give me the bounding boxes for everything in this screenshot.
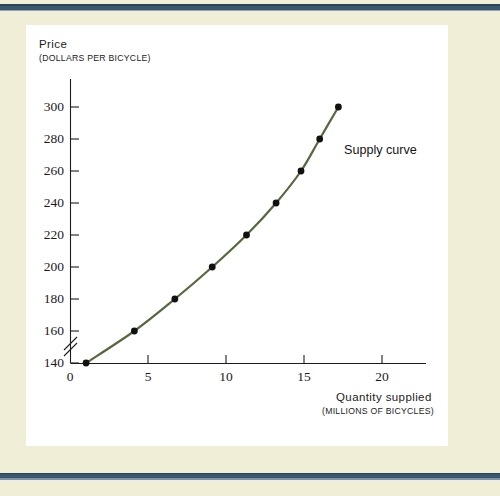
y-tick-label: 200 (30, 259, 64, 275)
data-point (243, 232, 250, 239)
data-point (273, 200, 280, 207)
x-tick-label: 0 (57, 369, 83, 385)
x-axis-ticks (148, 355, 382, 364)
axes (71, 79, 427, 364)
y-tick-label: 220 (30, 227, 64, 243)
data-point (316, 136, 323, 143)
data-point (171, 296, 178, 303)
y-tick-label: 260 (30, 163, 64, 179)
data-point (131, 328, 138, 335)
chart-card: Price (DOLLARS PER BICYCLE) Quantity sup… (26, 25, 448, 446)
x-tick-label: 10 (213, 369, 239, 385)
y-axis-units: (DOLLARS PER BICYCLE) (39, 53, 151, 64)
bottom-rule-divider (0, 473, 500, 480)
y-tick-label: 300 (30, 99, 64, 115)
x-tick-label: 5 (135, 369, 161, 385)
data-point (335, 104, 342, 111)
data-point (209, 264, 216, 271)
x-axis-units: (MILLIONS OF BICYCLES) (322, 406, 434, 417)
supply-curve-label: Supply curve (344, 143, 417, 157)
top-rule-divider (0, 4, 500, 11)
data-point (298, 168, 305, 175)
y-tick-label: 240 (30, 195, 64, 211)
y-tick-label: 160 (30, 323, 64, 339)
data-points (83, 104, 342, 367)
y-tick-label: 280 (30, 131, 64, 147)
x-tick-label: 15 (291, 369, 317, 385)
supply-curve (86, 107, 338, 363)
figure-page: Price (DOLLARS PER BICYCLE) Quantity sup… (0, 0, 500, 496)
x-axis-title: Quantity supplied (336, 390, 432, 405)
data-point (83, 360, 90, 367)
y-axis-ticks (71, 107, 80, 363)
y-axis-title: Price (39, 37, 67, 52)
x-tick-label: 20 (369, 369, 395, 385)
y-tick-label: 180 (30, 291, 64, 307)
y-axis-title-text: Price (39, 38, 67, 50)
